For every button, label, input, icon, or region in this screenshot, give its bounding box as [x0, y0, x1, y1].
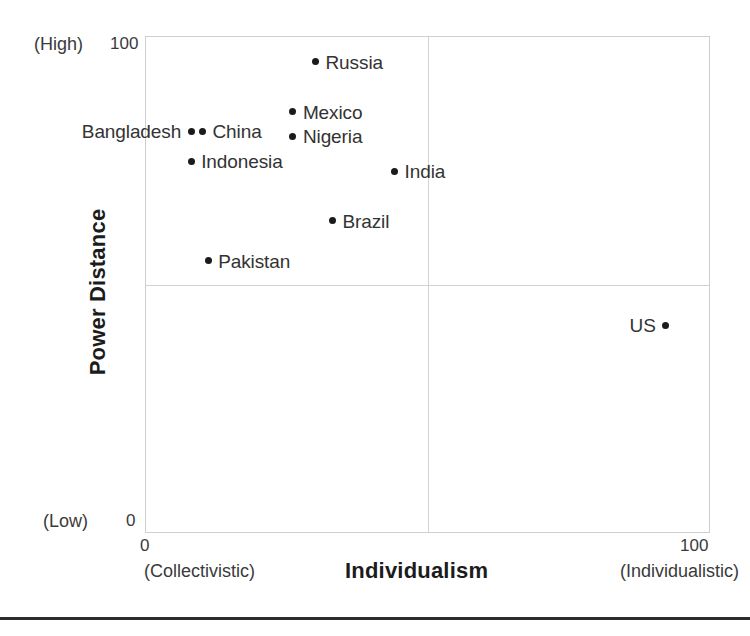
- data-point-label-nigeria: Nigeria: [303, 127, 363, 146]
- data-point-india: [391, 168, 398, 175]
- y-axis-tick-0: 0: [126, 511, 135, 530]
- data-point-label-us: US: [630, 316, 656, 335]
- data-point-label-indonesia: Indonesia: [201, 152, 283, 171]
- x-axis-tick-100: 100: [680, 536, 708, 555]
- data-point-russia: [312, 58, 319, 65]
- data-point-us: [662, 322, 669, 329]
- data-point-nigeria: [289, 133, 296, 140]
- data-point-label-brazil: Brazil: [342, 211, 389, 230]
- data-point-label-bangladesh: Bangladesh: [82, 122, 181, 141]
- plot-area: RussiaMexicoNigeriaBangladeshChinaIndone…: [145, 36, 710, 533]
- x-axis-tick-0: 0: [140, 536, 149, 555]
- data-point-bangladesh: [188, 128, 195, 135]
- quadrant-divider-horizontal: [146, 285, 709, 286]
- x-axis-title: Individualism: [345, 558, 488, 584]
- data-point-label-russia: Russia: [326, 52, 383, 71]
- data-point-china: [199, 128, 206, 135]
- data-point-label-mexico: Mexico: [303, 102, 363, 121]
- data-point-label-china: China: [213, 122, 262, 141]
- x-axis-left-note: (Collectivistic): [144, 561, 255, 581]
- data-point-indonesia: [188, 158, 195, 165]
- data-point-mexico: [289, 108, 296, 115]
- data-point-pakistan: [205, 257, 212, 264]
- y-axis-title: Power Distance: [85, 209, 111, 376]
- x-axis-right-note: (Individualistic): [620, 561, 739, 581]
- bottom-divider-rule: [0, 617, 750, 620]
- data-point-label-india: India: [405, 162, 446, 181]
- scatter-plot-figure: (High) 100 (Low) 0 Power Distance Russia…: [0, 0, 750, 636]
- data-point-brazil: [329, 217, 336, 224]
- y-axis-tick-100: 100: [110, 34, 138, 53]
- data-point-label-pakistan: Pakistan: [218, 251, 290, 270]
- y-axis-high-label: (High): [34, 34, 83, 54]
- y-axis-low-label: (Low): [43, 511, 88, 531]
